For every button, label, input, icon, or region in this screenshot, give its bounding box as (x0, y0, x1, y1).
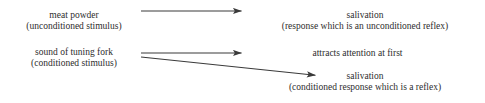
node-unconditioned-stimulus-line2: (unconditioned stimulus) (0, 21, 148, 32)
node-unconditioned-response-line1: salivation (245, 10, 485, 21)
classical-conditioning-diagram: meat powder (unconditioned stimulus) sal… (0, 0, 485, 103)
node-attention-note: attracts attention at first (290, 48, 425, 59)
node-conditioned-stimulus-line1: sound of tuning fork (0, 47, 148, 58)
node-unconditioned-response-line2: (response which is an unconditioned refl… (245, 21, 485, 32)
node-unconditioned-stimulus: meat powder (unconditioned stimulus) (0, 10, 148, 31)
node-attention-note-line1: attracts attention at first (290, 48, 425, 59)
node-conditioned-response: salivation (conditioned response which i… (245, 71, 485, 92)
node-unconditioned-stimulus-line1: meat powder (0, 10, 148, 21)
node-conditioned-stimulus-line2: (conditioned stimulus) (0, 58, 148, 69)
node-unconditioned-response: salivation (response which is an uncondi… (245, 10, 485, 31)
node-conditioned-response-line1: salivation (245, 71, 485, 82)
node-conditioned-response-line2: (conditioned response which is a reflex) (245, 82, 485, 93)
node-conditioned-stimulus: sound of tuning fork (conditioned stimul… (0, 47, 148, 68)
